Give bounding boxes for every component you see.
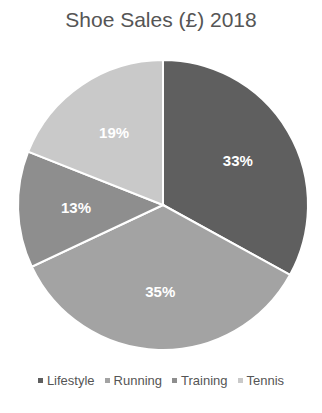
legend-item-running[interactable]: Running — [105, 373, 162, 388]
legend-item-lifestyle[interactable]: Lifestyle — [38, 373, 95, 388]
legend-label: Training — [181, 373, 227, 388]
slice-label: 35% — [145, 283, 175, 300]
legend-swatch — [172, 378, 177, 383]
legend-item-training[interactable]: Training — [172, 373, 227, 388]
legend-swatch — [105, 378, 110, 383]
legend-swatch — [238, 378, 243, 383]
legend-label: Running — [114, 373, 162, 388]
slice-label: 19% — [99, 124, 129, 141]
legend-label: Lifestyle — [47, 373, 95, 388]
slice-label: 13% — [61, 199, 91, 216]
slice-label: 33% — [223, 152, 253, 169]
legend-item-tennis[interactable]: Tennis — [238, 373, 285, 388]
legend: Lifestyle Running Training Tennis — [0, 373, 322, 388]
pie-chart: 33%35%13%19% — [0, 0, 322, 413]
legend-label: Tennis — [247, 373, 285, 388]
legend-swatch — [38, 378, 43, 383]
